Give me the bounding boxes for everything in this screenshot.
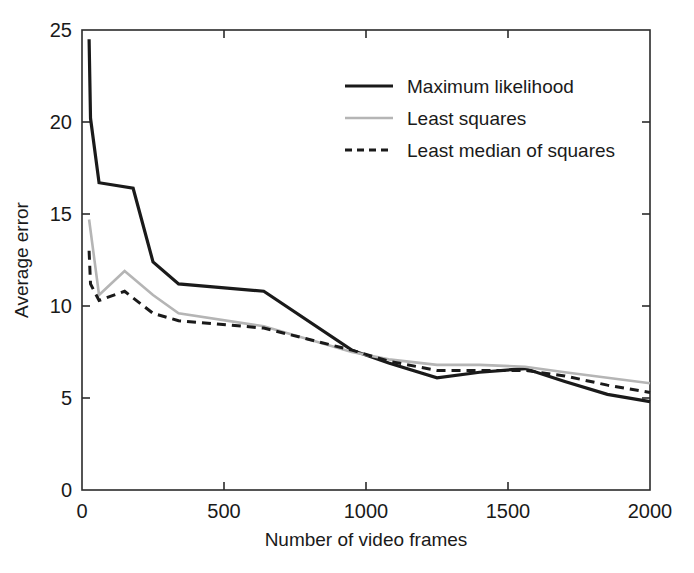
legend-label-0: Maximum likelihood (407, 76, 574, 97)
y-tick-label: 5 (61, 387, 72, 409)
y-tick-label: 15 (50, 203, 72, 225)
plot-frame (82, 30, 650, 490)
x-axis-ticks (224, 30, 508, 490)
x-axis-title: Number of video frames (265, 529, 468, 550)
chart-legend: Maximum likelihoodLeast squaresLeast med… (345, 76, 615, 161)
x-tick-label: 2000 (628, 500, 673, 522)
legend-label-1: Least squares (407, 108, 526, 129)
y-tick-label: 0 (61, 479, 72, 501)
chart-figure: 0500100015002000 0510152025 Number of vi… (0, 0, 694, 573)
y-tick-label: 25 (50, 19, 72, 41)
x-tick-label: 0 (76, 500, 87, 522)
y-tick-label: 10 (50, 295, 72, 317)
x-tick-label: 1000 (344, 500, 389, 522)
x-tick-label: 1500 (486, 500, 531, 522)
x-tick-label: 500 (207, 500, 240, 522)
y-tick-label: 20 (50, 111, 72, 133)
x-axis-tick-labels: 0500100015002000 (76, 500, 672, 522)
y-axis-title: Average error (11, 201, 32, 317)
legend-label-2: Least median of squares (407, 140, 615, 161)
y-axis-tick-labels: 0510152025 (50, 19, 72, 501)
series-line-1 (89, 220, 650, 384)
line-chart: 0500100015002000 0510152025 Number of vi… (0, 0, 694, 573)
